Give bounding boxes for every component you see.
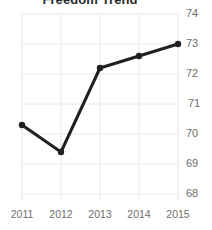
line-chart: Freedom Trend 74 73 72 71 bbox=[0, 0, 212, 230]
xtick-label-2015: 2015 bbox=[158, 208, 198, 220]
ytick-label-72: 72 bbox=[186, 67, 198, 79]
ytick-label-73: 73 bbox=[186, 37, 198, 49]
plot-area bbox=[0, 0, 212, 230]
xtick-label-2011: 2011 bbox=[2, 208, 42, 220]
vertical-gridlines bbox=[22, 14, 178, 200]
ytick-label-70: 70 bbox=[186, 127, 198, 139]
data-point-2014 bbox=[136, 53, 142, 59]
ytick-label-74: 74 bbox=[186, 7, 198, 19]
data-point-2015 bbox=[175, 41, 181, 47]
ytick-label-68: 68 bbox=[186, 187, 198, 199]
ytick-label-69: 69 bbox=[186, 157, 198, 169]
xtick-label-2013: 2013 bbox=[80, 208, 120, 220]
data-point-2012 bbox=[58, 149, 64, 155]
xtick-label-2012: 2012 bbox=[41, 208, 81, 220]
data-point-2011 bbox=[19, 122, 25, 128]
data-point-2013 bbox=[97, 65, 103, 71]
xtick-label-2014: 2014 bbox=[119, 208, 159, 220]
ytick-label-71: 71 bbox=[188, 97, 200, 109]
